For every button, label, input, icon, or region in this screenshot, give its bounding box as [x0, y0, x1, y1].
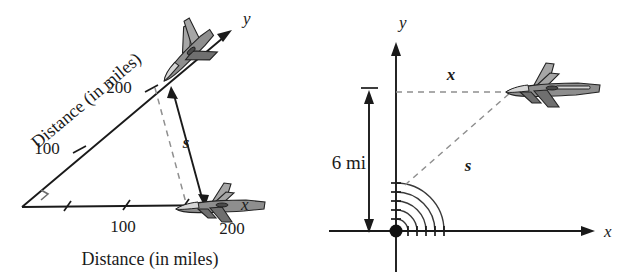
left-projection-dashed	[155, 88, 186, 203]
left-x-axis-caption: Distance (in miles)	[82, 249, 219, 270]
slant-distance-label-s: s	[464, 156, 472, 175]
right-y-axis-arrowhead	[391, 42, 401, 56]
left-x-tick-100: 100	[110, 217, 136, 236]
left-y-axis-caption: Distance (in miles)	[27, 49, 145, 153]
right-angle-marker	[41, 190, 48, 200]
left-plane-on-x-axis	[176, 183, 265, 222]
right-plane-level	[506, 63, 600, 107]
horizontal-distance-label-x: x	[446, 65, 456, 84]
figure-root: y x 100 200 100 200 s Distance (in miles…	[0, 0, 622, 280]
right-diagram: y x x s 6 mi	[311, 0, 622, 280]
right-y-axis-letter: y	[397, 13, 407, 32]
left-plane-on-y-axis	[143, 12, 224, 91]
left-y-axis-letter: y	[241, 9, 251, 28]
altitude-label: 6 mi	[332, 152, 366, 173]
left-x-axis-letter: x	[240, 195, 249, 214]
right-x-axis-arrowhead	[581, 226, 595, 236]
left-diagram: y x 100 200 100 200 s Distance (in miles…	[0, 0, 311, 280]
right-x-axis-letter: x	[603, 222, 612, 241]
left-x-tick-200: 200	[219, 219, 245, 238]
slant-distance-dashed	[405, 93, 510, 185]
radar-arcs	[396, 183, 444, 231]
left-distance-label-s: s	[182, 133, 190, 152]
right-origin-dot	[390, 225, 403, 238]
